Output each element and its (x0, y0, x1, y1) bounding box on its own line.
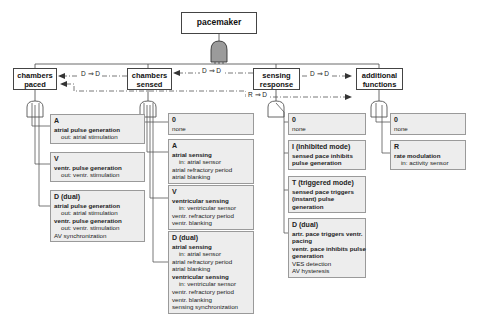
constraint-label-3: R ⇒ D (246, 91, 269, 98)
feature-line: pulse generation (292, 159, 362, 167)
feature-code: D (dual) (292, 221, 362, 230)
root-and-gate (211, 41, 227, 62)
feature-additional-functions-r: Rrate modulationin: activity sensor (390, 140, 466, 170)
feature-line: ventr. blanking (172, 296, 250, 304)
category-chambers-sensed: chamberssensed (127, 68, 172, 90)
feature-chambers-paced-d-dual: D (dual)atrial pulse generationout: atri… (50, 190, 145, 242)
feature-line: ventr. refractory period (172, 288, 250, 296)
feature-line: ventr. pace inhibits pulse (292, 245, 362, 253)
feature-line: rate modulation (394, 152, 462, 160)
pacemaker-feature-diagram: pacemaker chamberspacedAatrial pulse gen… (0, 0, 478, 327)
feature-code: V (172, 188, 250, 197)
constraint-label-0: D ⇒ D (79, 70, 102, 77)
category-additional-functions: additionalfunctions (356, 68, 403, 90)
feature-line: ventr. blanking (172, 219, 250, 227)
feature-line: out: ventr. stimulation (54, 171, 141, 179)
feature-line: out: atrial stimulation (54, 209, 141, 217)
feature-line: none (172, 125, 250, 133)
feature-code: D (dual) (172, 234, 250, 243)
feature-line: atrial refractory period (172, 166, 250, 174)
feature-additional-functions-0: 0none (390, 113, 466, 135)
feature-line: AV synchronization (54, 232, 141, 240)
feature-chambers-sensed-a: Aatrial sensingin: atrial sensoratrial r… (168, 139, 254, 184)
feature-code: V (54, 155, 141, 164)
feature-line: atrial refractory period (172, 258, 250, 266)
feature-line: in: ventricular sensor (172, 280, 250, 288)
feature-line: generation (292, 252, 362, 260)
feature-chambers-paced-a: Aatrial pulse generationout: atrial stim… (50, 114, 145, 144)
feature-code: A (54, 117, 141, 126)
feature-line: atrial sensing (172, 151, 250, 159)
feature-line: ventricular sensing (172, 197, 250, 205)
feature-sensing-response-t-triggered-mode: T (triggered mode)sensed pace triggers(i… (288, 176, 366, 213)
feature-code: 0 (172, 116, 250, 125)
feature-line: ventricular sensing (172, 273, 250, 281)
root-node-pacemaker: pacemaker (181, 12, 257, 34)
feature-line: out: atrial stimulation (54, 133, 141, 141)
feature-line: (instant) pulse (292, 195, 362, 203)
feature-code: I (inhibited mode) (292, 143, 362, 152)
feature-line: atrial pulse generation (54, 126, 141, 134)
feature-line: atrial sensing (172, 243, 250, 251)
additional-functions-gate (371, 101, 387, 117)
feature-line: out: ventr. stimulation (54, 224, 141, 232)
feature-line: ventr. pulse generation (54, 164, 141, 172)
feature-sensing-response-d-dual: D (dual)artr. pace triggers ventr.pacing… (288, 218, 366, 278)
category-sensing-response: sensingresponse (253, 68, 300, 90)
feature-code: 0 (394, 116, 462, 125)
feature-chambers-sensed-0: 0none (168, 113, 254, 135)
feature-line: ventr. pulse generation (54, 217, 141, 225)
constraint-label-2: D ⇒ D (308, 70, 331, 77)
feature-line: none (292, 125, 362, 133)
feature-code: R (394, 143, 462, 152)
category-chambers-paced: chamberspaced (13, 68, 57, 90)
feature-line: none (394, 125, 462, 133)
feature-code: T (triggered mode) (292, 179, 362, 188)
feature-line: generation (292, 203, 362, 211)
feature-sensing-response-0: 0none (288, 113, 366, 135)
feature-line: in: ventricular sensor (172, 204, 250, 212)
constraint-lines (65, 73, 345, 97)
feature-line: sensed pace triggers (292, 188, 362, 196)
constraint-label-1: D ⇒ D (200, 67, 223, 74)
feature-line: atrial blanking (172, 265, 250, 273)
feature-line: pacing (292, 237, 362, 245)
feature-code: A (172, 142, 250, 151)
feature-chambers-sensed-v: Vventricular sensingin: ventricular sens… (168, 185, 254, 230)
feature-line: in: atrial sensor (172, 158, 250, 166)
feature-code: 0 (292, 116, 362, 125)
feature-line: in: activity sensor (394, 159, 462, 167)
feature-chambers-sensed-d-dual: D (dual)atrial sensingin: atrial sensora… (168, 231, 254, 314)
feature-line: VES detection (292, 260, 362, 268)
feature-line: in: atrial sensor (172, 250, 250, 258)
category-gate-stems (35, 90, 379, 101)
feature-line: sensed pace inhibits (292, 152, 362, 160)
feature-chambers-paced-v: Vventr. pulse generationout: ventr. stim… (50, 152, 145, 182)
feature-sensing-response-i-inhibited-mode: I (inhibited mode)sensed pace inhibitspu… (288, 140, 366, 170)
feature-line: ventr. refractory period (172, 212, 250, 220)
feature-line: atrial blanking (172, 173, 250, 181)
feature-line: AV hysteresis (292, 267, 362, 275)
feature-line: artr. pace triggers ventr. (292, 230, 362, 238)
feature-line: sensing synchronization (172, 303, 250, 311)
constraint-rate-modulation (66, 84, 345, 97)
feature-code: D (dual) (54, 193, 141, 202)
feature-line: atrial pulse generation (54, 202, 141, 210)
